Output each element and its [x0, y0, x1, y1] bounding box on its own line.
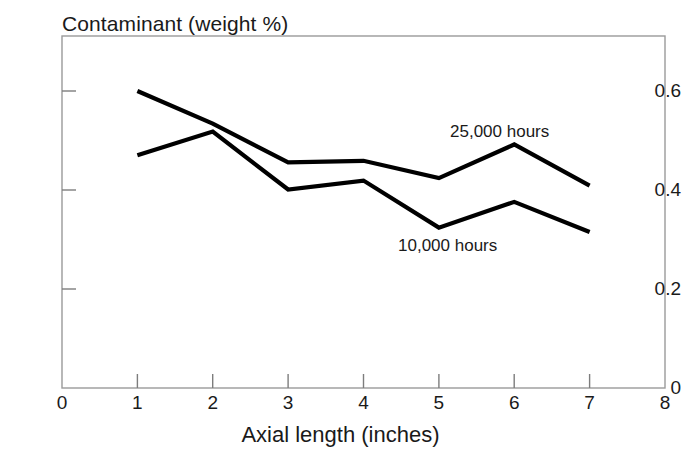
y-axis-ticks — [62, 91, 76, 289]
series-annotation-10000-hours: 10,000 hours — [398, 236, 497, 256]
xtick-label-3: 3 — [268, 392, 308, 414]
xtick-label-2: 2 — [193, 392, 233, 414]
ytick-label-0.6: 0.6 — [635, 80, 681, 102]
x-axis-label: Axial length (inches) — [0, 422, 681, 448]
xtick-label-1: 1 — [117, 392, 157, 414]
ytick-label-0.2: 0.2 — [635, 278, 681, 300]
xtick-label-7: 7 — [570, 392, 610, 414]
xtick-label-0: 0 — [42, 392, 82, 414]
plot-frame — [62, 36, 665, 388]
data-series-layer — [137, 91, 589, 232]
ytick-label-0.4: 0.4 — [635, 179, 681, 201]
xtick-label-5: 5 — [419, 392, 459, 414]
xtick-label-6: 6 — [494, 392, 534, 414]
xtick-label-8: 8 — [645, 392, 685, 414]
xtick-label-4: 4 — [344, 392, 384, 414]
x-axis-ticks — [137, 374, 589, 388]
series-annotation-25000-hours: 25,000 hours — [450, 122, 549, 142]
